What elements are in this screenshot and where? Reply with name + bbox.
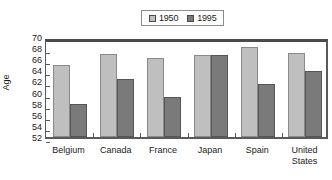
bar [164,97,181,137]
x-axis-tickmark [235,133,236,137]
bar [70,104,87,137]
x-axis-tick-label: Belgium [45,145,92,156]
y-axis-tick-62: 62 [20,78,42,87]
x-axis-tick-label: France [139,145,186,156]
bar [117,79,134,137]
chart-bars-container [46,42,326,137]
x-axis-tick-label: Canada [92,145,139,156]
y-axis-tickmark [46,53,50,54]
legend-label-1950: 1950 [159,14,178,23]
y-axis-tick-64: 64 [20,67,42,76]
bar [100,54,117,137]
bar [241,47,258,137]
y-axis-tick-54: 54 [20,123,42,132]
y-axis-tickmark [46,86,50,87]
bar [258,84,275,137]
y-axis-tick-68: 68 [20,45,42,54]
bar [53,65,70,137]
bar [194,55,211,137]
bar [211,55,228,137]
y-axis-tick-66: 66 [20,56,42,65]
x-axis-tickmark [140,133,141,137]
y-axis-tickmark [46,98,50,99]
y-axis-tick-58: 58 [20,101,42,110]
y-axis-tickmark [46,109,50,110]
bar [288,53,305,137]
y-axis-tickmark [46,131,50,132]
y-axis-tick-52: 52 [20,134,42,143]
x-axis-tick-labels: BelgiumCanadaFranceJapanSpainUnited Stat… [45,145,328,178]
y-axis-tickmark [46,75,50,76]
x-axis-tickmark [93,133,94,137]
legend-entry-1950: 1950 [149,14,178,23]
x-axis-tickmark [188,133,189,137]
y-axis-tickmark [46,64,50,65]
chart-legend: 1950 1995 [141,10,224,26]
y-axis-tickmark [46,142,50,143]
y-axis-tick-70: 70 [20,34,42,43]
bar [305,71,322,137]
y-axis-tick-60: 60 [20,90,42,99]
y-axis-title: Age [2,66,11,100]
legend-entry-1995: 1995 [187,14,216,23]
legend-swatch-1995-icon [187,15,194,22]
legend-label-1995: 1995 [197,14,216,23]
x-axis-tick-label: United States [281,145,328,167]
bar [147,58,164,137]
y-axis-tickmark [46,120,50,121]
chart-plot-area [45,39,328,139]
y-axis-tick-labels: 70686664626058565452 [20,38,42,143]
y-axis-tick-56: 56 [20,112,42,121]
x-axis-tick-label: Spain [234,145,281,156]
x-axis-tickmark [282,133,283,137]
x-axis-tick-label: Japan [187,145,234,156]
legend-swatch-1950-icon [149,15,156,22]
